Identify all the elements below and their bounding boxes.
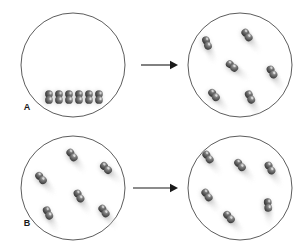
atom-highlight bbox=[70, 98, 72, 101]
molecule bbox=[53, 90, 63, 105]
atom-highlight bbox=[70, 92, 72, 95]
arrow-head bbox=[170, 61, 178, 69]
atom-highlight bbox=[80, 92, 82, 95]
molecule bbox=[73, 90, 83, 105]
atom-highlight bbox=[50, 98, 52, 101]
atom-highlight bbox=[100, 92, 102, 95]
panel-label-a: A bbox=[24, 102, 31, 112]
atom-sphere bbox=[55, 96, 63, 104]
molecule bbox=[63, 90, 73, 105]
flask-b-after bbox=[188, 136, 292, 240]
atom-sphere bbox=[85, 96, 93, 104]
scene-group: AB bbox=[21, 13, 292, 240]
flask-outline bbox=[21, 13, 125, 117]
molecule-state-diagram: AB bbox=[0, 0, 305, 246]
atom-sphere bbox=[95, 96, 103, 104]
atom-highlight bbox=[80, 98, 82, 101]
atom-highlight bbox=[90, 92, 92, 95]
molecule bbox=[83, 90, 93, 105]
diagram-canvas: AB bbox=[0, 0, 305, 246]
atom-sphere bbox=[75, 96, 83, 104]
arrow-head bbox=[170, 184, 178, 192]
flask-outline bbox=[188, 136, 292, 240]
arrow-b bbox=[133, 184, 178, 192]
flask-a-after bbox=[188, 13, 292, 122]
atom-highlight bbox=[60, 98, 62, 101]
atom-highlight bbox=[60, 92, 62, 95]
molecule bbox=[43, 90, 53, 105]
atom-highlight bbox=[50, 92, 52, 95]
atom-highlight bbox=[90, 98, 92, 101]
molecule bbox=[93, 90, 103, 105]
panel-label-b: B bbox=[24, 218, 31, 228]
arrow-a bbox=[141, 61, 178, 69]
atom-sphere bbox=[45, 96, 53, 104]
flask-b-before bbox=[21, 136, 126, 240]
flask-outline bbox=[188, 13, 292, 117]
atom-highlight bbox=[100, 98, 102, 101]
atom-sphere bbox=[65, 96, 73, 104]
flask-a-before bbox=[21, 13, 125, 117]
